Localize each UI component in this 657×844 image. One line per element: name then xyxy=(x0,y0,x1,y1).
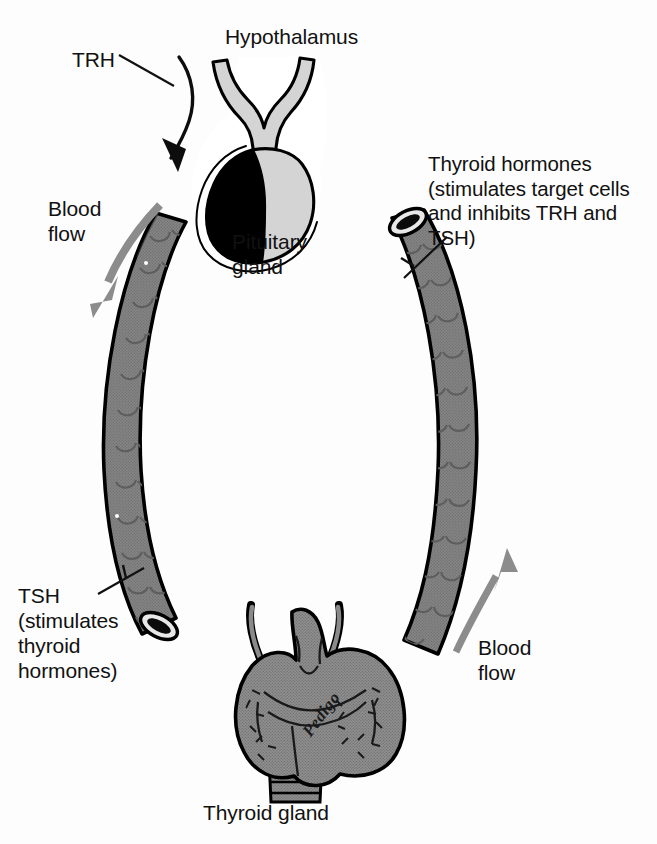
label-thyroid-hormones: Thyroid hormones (stimulates target cell… xyxy=(428,152,630,250)
right-blood-vessel xyxy=(385,203,477,654)
label-blood-flow-left: Blood flow xyxy=(48,196,101,246)
label-pituitary-gland: Pituitary gland xyxy=(232,229,307,279)
trh-leader-line xyxy=(119,55,174,86)
label-thyroid-gland: Thyroid gland xyxy=(203,800,329,825)
label-tsh: TSH (stimulates thyroid hormones) xyxy=(18,583,118,683)
trh-arrow-group xyxy=(119,55,193,172)
label-blood-flow-right: Blood flow xyxy=(478,635,531,685)
thyroid-feedback-diagram: Hypothalamus TRH Pituitary gland Blood f… xyxy=(0,0,657,844)
trh-arrow-shaft xyxy=(171,57,193,158)
blood-flow-right-head xyxy=(494,548,518,592)
blood-flow-left-head xyxy=(90,276,118,318)
label-trh: TRH xyxy=(72,47,115,72)
left-vessel-body xyxy=(103,213,186,634)
left-blood-vessel xyxy=(103,213,192,645)
label-hypothalamus: Hypothalamus xyxy=(225,24,358,49)
trh-arrow-head xyxy=(162,138,186,172)
